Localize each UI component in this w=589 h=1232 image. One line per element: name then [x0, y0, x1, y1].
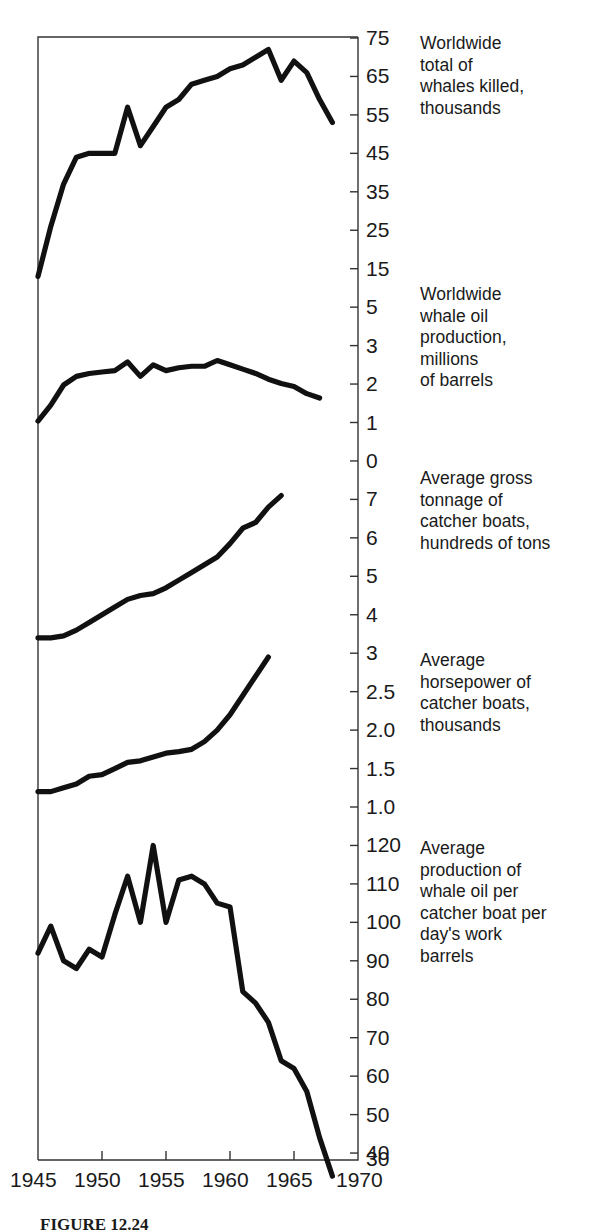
panel-caption-gross-tonnage: Average gross tonnage of catcher boats, …	[420, 468, 589, 554]
x-tick-label: 1965	[266, 1169, 313, 1190]
y-tick-label: 65	[366, 65, 389, 86]
y-tick-label: 6	[366, 527, 378, 548]
y-tick-label: 3	[366, 335, 378, 356]
y-tick-label: 1.0	[366, 796, 395, 817]
y-tick-label: 15	[366, 258, 389, 279]
y-tick-label: 120	[366, 834, 401, 855]
y-tick-label: 50	[366, 1104, 389, 1125]
y-tick-label: 100	[366, 911, 401, 932]
y-tick-label: 4	[366, 604, 378, 625]
y-tick-label: 55	[366, 104, 389, 125]
y-tick-label: 2	[366, 373, 378, 394]
figure-caption: FIGURE 12.24	[40, 1215, 149, 1232]
y-tick-label: 5	[366, 296, 378, 317]
x-tick-label: 1945	[10, 1169, 57, 1190]
y-tick-label: 75	[366, 27, 389, 48]
y-tick-label: 35	[366, 181, 389, 202]
x-tick-label: 1955	[138, 1169, 185, 1190]
series-line-whales-killed	[38, 50, 332, 277]
y-tick-label: 70	[366, 1027, 389, 1048]
figure-container: 7565554535251553210765432.52.01.51.01201…	[0, 0, 589, 1232]
x-tick-label: 1970	[336, 1169, 383, 1190]
x-tick-label: 1950	[74, 1169, 121, 1190]
panel-caption-whales-killed: Worldwide total of whales killed, thousa…	[420, 33, 589, 119]
y-tick-label: 1	[366, 412, 378, 433]
y-tick-label: 7	[366, 488, 378, 509]
y-tick-label: 30	[366, 1148, 389, 1169]
y-tick-label: 2.0	[366, 719, 395, 740]
panel-caption-oil-per-boat-day: Average production of whale oil per catc…	[420, 838, 589, 967]
y-tick-label: 0	[366, 450, 378, 471]
panel-caption-horsepower: Average horsepower of catcher boats, tho…	[420, 650, 589, 736]
y-tick-label: 60	[366, 1065, 389, 1086]
y-tick-label: 45	[366, 142, 389, 163]
y-tick-label: 5	[366, 565, 378, 586]
chart-plot	[0, 0, 589, 1232]
y-tick-label: 2.5	[366, 681, 395, 702]
y-tick-label: 3	[366, 642, 378, 663]
y-tick-label: 25	[366, 219, 389, 240]
y-tick-label: 80	[366, 988, 389, 1009]
y-tick-label: 1.5	[366, 758, 395, 779]
series-line-whale-oil-production	[38, 361, 320, 422]
series-line-oil-per-boat-day	[38, 845, 332, 1176]
panel-caption-whale-oil-production: Worldwide whale oil production, millions…	[420, 284, 589, 392]
series-line-horsepower	[38, 657, 268, 792]
x-tick-label: 1960	[202, 1169, 249, 1190]
series-line-gross-tonnage	[38, 496, 281, 638]
y-tick-label: 110	[366, 873, 399, 894]
y-tick-label: 90	[366, 950, 389, 971]
